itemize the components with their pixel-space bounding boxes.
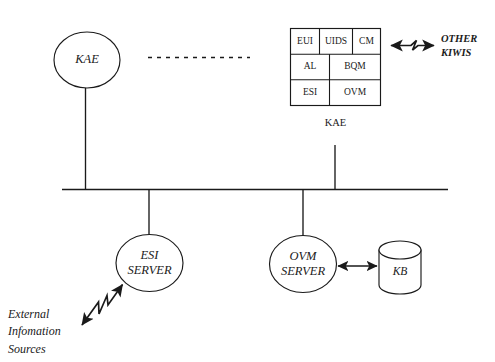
- kae-module-uids[interactable]: UIDS: [325, 36, 347, 46]
- link-external-to-esi-server: [82, 285, 123, 326]
- kae-module-eui[interactable]: EUI: [297, 36, 313, 46]
- label-other-kiwis: OTHER KIWIS: [440, 33, 477, 58]
- kae-left-label: KAE: [74, 52, 99, 66]
- node-kae-left[interactable]: KAE: [54, 32, 120, 88]
- kae-module-esi[interactable]: ESI: [303, 87, 317, 97]
- node-ovm-server[interactable]: OVM SERVER: [270, 236, 337, 293]
- kae-module-cm[interactable]: CM: [359, 36, 374, 46]
- other-kiwis-line1: OTHER: [441, 33, 477, 44]
- node-esi-server[interactable]: ESI SERVER: [116, 235, 183, 292]
- external-sources-line3: Sources: [8, 342, 46, 356]
- node-kb-database[interactable]: KB: [379, 241, 421, 294]
- kb-label: KB: [392, 265, 408, 277]
- label-external-sources: External Infomation Sources: [7, 307, 61, 356]
- kae-right-label: KAE: [325, 117, 347, 128]
- external-sources-line2: Infomation: [7, 324, 61, 338]
- kae-module-al[interactable]: AL: [304, 61, 317, 71]
- ovm-server-label-line2: SERVER: [281, 264, 326, 278]
- kae-module-ovm[interactable]: OVM: [344, 87, 367, 97]
- node-kae-right[interactable]: EUI UIDS CM AL BQM ESI OVM KAE: [291, 29, 381, 129]
- esi-server-label-line2: SERVER: [127, 263, 172, 277]
- link-kae-to-other-kiwis: [391, 41, 434, 51]
- ovm-server-label-line1: OVM: [289, 249, 317, 263]
- architecture-diagram: KAE EUI UID: [0, 0, 495, 362]
- external-sources-line1: External: [7, 307, 50, 321]
- diagram-canvas: KAE EUI UID: [0, 0, 495, 362]
- other-kiwis-line2: KIWIS: [440, 47, 472, 58]
- kae-module-bqm[interactable]: BQM: [344, 61, 366, 71]
- esi-server-label-line1: ESI: [139, 248, 159, 262]
